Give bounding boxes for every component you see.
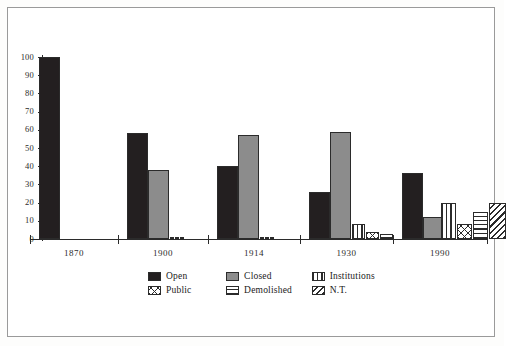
bar-group-1990 xyxy=(393,57,483,239)
bar-group-1870 xyxy=(30,57,120,239)
x-axis-label-1900: 1900 xyxy=(133,248,193,258)
legend-item-n-t[interactable]: N.T. xyxy=(312,285,386,295)
y-tick-label-40: 40 xyxy=(0,162,34,171)
legend-row-1: OpenClosedInstitutions xyxy=(148,269,386,283)
y-tick-label-60: 60 xyxy=(0,125,34,134)
bar-1930-public xyxy=(366,232,379,239)
legend-item-demolished[interactable]: Demolished xyxy=(226,285,312,295)
bar-1900-public xyxy=(175,237,179,239)
bar-1990-demolished xyxy=(473,212,488,239)
y-tick-label-70: 70 xyxy=(0,107,34,116)
bar-group-1914 xyxy=(208,57,298,239)
bar-1990-public xyxy=(457,224,472,239)
bar-1914-institutions xyxy=(260,237,264,239)
y-tick-label-10: 10 xyxy=(0,216,34,225)
bar-1900-closed xyxy=(148,170,169,239)
bar-1930-closed xyxy=(330,132,351,239)
bar-1900-open xyxy=(127,133,148,239)
bar-1914-closed xyxy=(238,135,259,239)
legend-label: Open xyxy=(166,271,187,281)
x-axis-label-1990: 1990 xyxy=(410,248,470,258)
bar-1900-demolished xyxy=(180,237,184,239)
bar-1914-open xyxy=(217,166,238,239)
y-tick-label-0: 0 xyxy=(0,235,34,244)
x-axis-label-1914: 1914 xyxy=(224,248,284,258)
bar-1990-open xyxy=(402,173,423,239)
legend-item-open[interactable]: Open xyxy=(148,271,226,281)
x-axis-label-1930: 1930 xyxy=(317,248,377,258)
y-tick-label-80: 80 xyxy=(0,89,34,98)
bar-1930-demolished xyxy=(380,234,393,239)
legend-swatch-demolished xyxy=(226,286,239,295)
bar-1914-public xyxy=(265,237,269,239)
legend-swatch-open xyxy=(148,272,161,281)
y-tick-label-50: 50 xyxy=(0,144,34,153)
y-tick-label-30: 30 xyxy=(0,180,34,189)
y-tick-label-20: 20 xyxy=(0,198,34,207)
legend-swatch-institutions xyxy=(312,272,325,281)
bar-group-1900 xyxy=(118,57,208,239)
bar-1930-institutions xyxy=(352,224,365,239)
bar-1990-institutions xyxy=(441,203,456,239)
legend-label: Closed xyxy=(244,271,272,281)
bar-1870-open xyxy=(39,57,60,239)
x-axis-line xyxy=(30,239,487,240)
y-tick-0 xyxy=(38,239,44,240)
y-tick-label-100: 100 xyxy=(0,53,34,62)
legend-item-institutions[interactable]: Institutions xyxy=(312,271,386,281)
legend-row-2: PublicDemolishedN.T. xyxy=(148,283,386,297)
y-tick-label-90: 90 xyxy=(0,71,34,80)
legend-item-closed[interactable]: Closed xyxy=(226,271,312,281)
legend-label: N.T. xyxy=(330,285,348,295)
bar-1900-institutions xyxy=(170,237,174,239)
legend-label: Public xyxy=(166,285,191,295)
legend-item-public[interactable]: Public xyxy=(148,285,226,295)
bar-group-1930 xyxy=(300,57,390,239)
bar-1930-open xyxy=(309,192,330,239)
legend-swatch-closed xyxy=(226,272,239,281)
legend-label: Demolished xyxy=(244,285,292,295)
legend-label: Institutions xyxy=(330,271,375,281)
legend-swatch-nt xyxy=(312,286,325,295)
bar-1990-n-t xyxy=(489,203,506,239)
bar-1914-demolished xyxy=(270,237,274,239)
chart-legend: OpenClosedInstitutionsPublicDemolishedN.… xyxy=(148,269,386,297)
x-axis-label-1870: 1870 xyxy=(44,248,104,258)
legend-swatch-public xyxy=(148,286,161,295)
plot-area xyxy=(42,57,485,239)
